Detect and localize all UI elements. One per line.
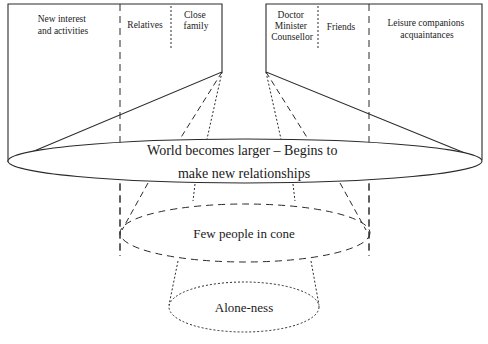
right-outer-to-middle-dotted bbox=[293, 184, 295, 201]
right-middle-to-inner bbox=[311, 261, 319, 305]
label-close-family: Close family bbox=[184, 10, 209, 31]
social-world-cone-diagram: New interest and activities Relatives Cl… bbox=[0, 0, 488, 344]
left-outer-to-middle-dashed bbox=[122, 183, 148, 230]
label-middle-level: Few people in cone bbox=[193, 226, 295, 241]
label-friends: Friends bbox=[327, 22, 356, 32]
left-panel bbox=[8, 4, 222, 255]
label-inner-level: Alone-ness bbox=[215, 300, 274, 315]
label-leisure-companions: Leisure companions acquaintances bbox=[387, 18, 466, 40]
left-converge-dashed bbox=[180, 72, 222, 139]
left-converge-dotted bbox=[207, 72, 222, 139]
right-converge-dotted bbox=[266, 72, 281, 139]
right-converge-dashed bbox=[266, 72, 308, 139]
label-doctor-minister-counsellor: Doctor Minister Counsellor bbox=[271, 10, 314, 42]
left-outer-to-middle-dotted bbox=[193, 184, 195, 201]
label-new-interest: New interest and activities bbox=[38, 14, 89, 36]
label-relatives: Relatives bbox=[127, 20, 163, 30]
